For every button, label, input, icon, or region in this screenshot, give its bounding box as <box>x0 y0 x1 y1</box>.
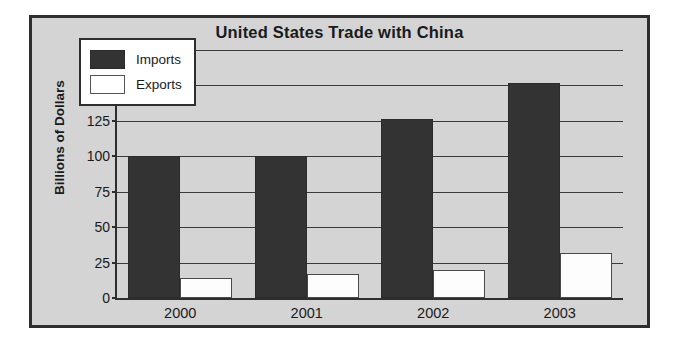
chart-legend: Imports Exports <box>79 38 196 106</box>
y-tick-mark-75 <box>112 191 117 193</box>
bar-exports-2003 <box>560 253 612 298</box>
x-axis-label-2001: 2001 <box>291 305 323 321</box>
x-axis-label-2002: 2002 <box>417 305 449 321</box>
y-tick-mark-125 <box>112 120 117 122</box>
bar-imports-2000 <box>128 156 180 298</box>
legend-item-imports: Imports <box>90 47 182 72</box>
legend-label-imports: Imports <box>136 52 181 67</box>
x-axis-label-2000: 2000 <box>164 305 196 321</box>
y-tick-label-100: 100 <box>87 148 110 164</box>
bar-imports-2001 <box>255 156 307 298</box>
y-axis-title: Billions of Dollars <box>52 48 67 228</box>
y-tick-label-75: 75 <box>94 184 110 200</box>
chart-figure-frame: United States Trade with China Billions … <box>29 15 650 328</box>
y-tick-label-125: 125 <box>87 113 110 129</box>
y-tick-label-0: 0 <box>102 290 110 306</box>
bar-imports-2002 <box>381 119 433 298</box>
y-tick-label-50: 50 <box>94 219 110 235</box>
y-tick-mark-50 <box>112 226 117 228</box>
bar-exports-2002 <box>433 270 485 298</box>
y-tick-mark-100 <box>112 155 117 157</box>
legend-swatch-imports-icon <box>90 50 125 69</box>
bar-imports-2003 <box>508 83 560 298</box>
bar-exports-2000 <box>180 278 232 298</box>
bar-exports-2001 <box>307 274 359 298</box>
legend-label-exports: Exports <box>136 77 182 92</box>
legend-swatch-exports-icon <box>90 75 125 94</box>
y-tick-mark-0 <box>112 297 117 299</box>
legend-item-exports: Exports <box>90 72 182 97</box>
y-tick-mark-25 <box>112 262 117 264</box>
x-axis-label-2003: 2003 <box>544 305 576 321</box>
y-tick-label-25: 25 <box>94 255 110 271</box>
